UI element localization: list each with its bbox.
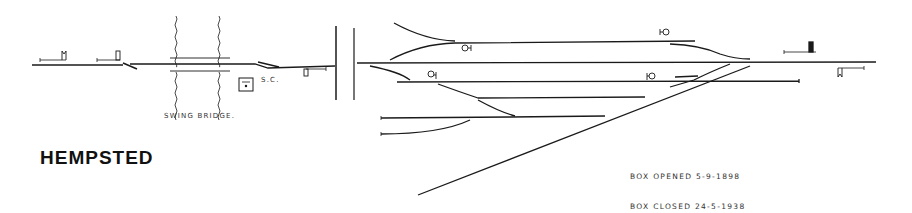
- box-opened-note: BOX OPENED 5-9-1898: [630, 172, 740, 181]
- main-line-right: [357, 62, 876, 63]
- track-diagram: [0, 0, 912, 213]
- main-line-center: [130, 64, 335, 68]
- signal-cabin-label: S.C.: [261, 76, 280, 84]
- station-title: HEMPSTED: [40, 147, 154, 169]
- signal-cabin-icon: [239, 78, 253, 91]
- signal-post-icon: [116, 51, 120, 60]
- signal-dark-icon: [809, 42, 813, 52]
- signal-m-icon: [62, 51, 66, 60]
- box-closed-note: BOX CLOSED 24-5-1938: [630, 202, 745, 211]
- swing-bridge-label: SWING BRIDGE.: [164, 112, 235, 120]
